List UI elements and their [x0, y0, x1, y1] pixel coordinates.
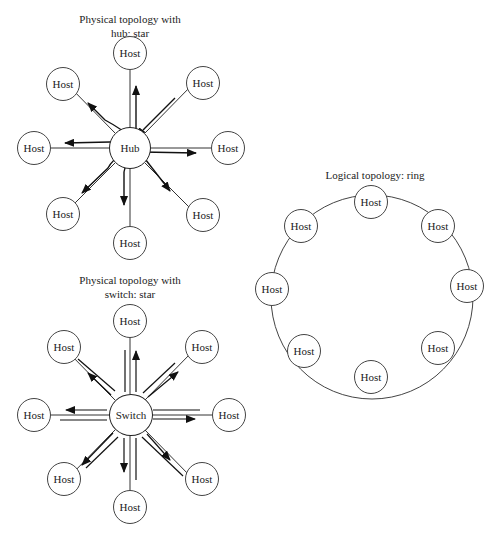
ring-host-e: Host: [450, 269, 484, 303]
switch-host-e: Host: [212, 398, 246, 432]
ring-host-se: Host: [421, 331, 455, 365]
switch-host-n: Host: [113, 304, 147, 338]
switch-title-line2: switch: star: [60, 287, 200, 301]
hub-host-w: Host: [17, 131, 51, 165]
ring-host-w: Host: [255, 272, 289, 306]
switch-host-sw: Host: [47, 462, 81, 496]
hub-host-se: Host: [186, 198, 220, 232]
hub-host-nw: Host: [46, 67, 80, 101]
ring-host-ne: Host: [421, 209, 455, 243]
hub-host-e: Host: [211, 131, 245, 165]
hub-title-line1: Physical topology with: [60, 12, 200, 26]
switch-node: Switch: [109, 394, 153, 436]
switch-host-se: Host: [185, 462, 219, 496]
ring-host-sw: Host: [287, 334, 321, 368]
switch-host-w: Host: [17, 398, 51, 432]
switch-host-s: Host: [113, 490, 147, 524]
switch-title-line1: Physical topology with: [60, 273, 200, 287]
hub-host-s: Host: [113, 226, 147, 260]
ring-diagram-title: Logical topology: ring: [290, 168, 460, 182]
hub-host-n: Host: [113, 36, 147, 70]
hub-node: Hub: [109, 127, 151, 169]
ring-host-n: Host: [354, 185, 388, 219]
switch-host-nw: Host: [47, 330, 81, 364]
hub-host-sw: Host: [46, 197, 80, 231]
ring-host-s: Host: [354, 360, 388, 394]
ring-host-nw: Host: [284, 209, 318, 243]
switch-diagram-title: Physical topology with switch: star: [60, 273, 200, 301]
hub-host-ne: Host: [186, 66, 220, 100]
switch-host-ne: Host: [185, 330, 219, 364]
